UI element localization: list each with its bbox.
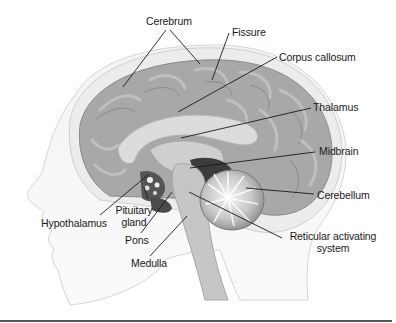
label-hypothalamus: Hypothalamus: [41, 217, 107, 229]
label-pituitary-line2: gland: [112, 216, 156, 228]
label-reticular-line1: Reticular activating: [283, 230, 383, 242]
brain-illustration: [0, 0, 396, 323]
label-fissure: Fissure: [232, 26, 266, 38]
label-pituitary-line1: Pituitary: [112, 204, 156, 216]
label-thalamus: Thalamus: [313, 101, 358, 113]
label-corpus-callosum: Corpus callosum: [279, 51, 356, 63]
label-midbrain: Midbrain: [319, 145, 358, 157]
label-reticular-line2: system: [283, 242, 383, 254]
cerebellum-shape: [200, 170, 264, 230]
label-cerebellum: Cerebellum: [317, 189, 370, 201]
brain-diagram: Cerebrum Fissure Corpus callosum Thalamu…: [0, 0, 396, 323]
label-pituitary-gland: Pituitary gland: [112, 204, 156, 228]
label-pons: Pons: [125, 234, 149, 246]
label-medulla: Medulla: [131, 257, 167, 269]
label-cerebrum: Cerebrum: [146, 15, 192, 27]
label-reticular-activating-system: Reticular activating system: [283, 230, 383, 254]
bottom-rule: [0, 320, 392, 322]
